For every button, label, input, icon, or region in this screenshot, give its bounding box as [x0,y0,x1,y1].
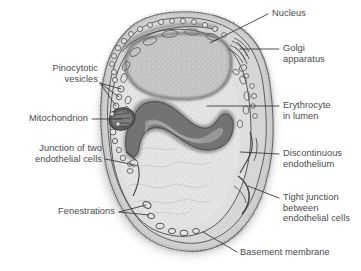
label-nucleus-line-1: Nucleus [272,8,306,19]
label-fenestrations-line-1: Fenestrations [45,206,115,217]
label-basement-membrane-line-1: Basement membrane [240,247,330,258]
label-golgi-apparatus-line-1: Golgi [283,43,325,54]
label-mitochondrion-line-1: Mitochondrion [8,113,88,124]
label-tight-junction: Tight junctionbetweenendothelial cells [283,192,350,224]
label-pinocytotic-vesicles: Pinocytoticvesicles [18,63,98,84]
label-junction-of-two-endothelial-cells-line-2: endothelial cells [12,154,102,165]
label-pinocytotic-vesicles-line-1: Pinocytotic [18,63,98,74]
label-junction-of-two-endothelial-cells-line-1: Junction of two [12,143,102,154]
label-golgi-apparatus-line-2: apparatus [283,54,325,65]
figure-canvas: NucleusGolgiapparatusErythrocytein lumen… [0,0,361,271]
label-tight-junction-line-1: Tight junction [283,192,350,203]
label-basement-membrane: Basement membrane [240,247,330,258]
label-tight-junction-line-3: endothelial cells [283,213,350,224]
label-junction-of-two-endothelial-cells: Junction of twoendothelial cells [12,143,102,164]
label-mitochondrion: Mitochondrion [8,113,88,124]
label-pinocytotic-vesicles-line-2: vesicles [18,74,98,85]
label-discontinuous-endothelium: Discontinuousendothelium [283,148,342,169]
label-fenestrations: Fenestrations [45,206,115,217]
capillary-diagram [0,0,361,271]
label-discontinuous-endothelium-line-1: Discontinuous [283,148,342,159]
label-discontinuous-endothelium-line-2: endothelium [283,159,342,170]
label-erythrocyte-in-lumen-line-2: in lumen [283,111,331,122]
label-golgi-apparatus: Golgiapparatus [283,43,325,64]
label-erythrocyte-in-lumen: Erythrocytein lumen [283,100,331,121]
nucleus-structure [126,33,232,99]
label-erythrocyte-in-lumen-line-1: Erythrocyte [283,100,331,111]
label-nucleus: Nucleus [272,8,306,19]
label-tight-junction-line-2: between [283,203,350,214]
